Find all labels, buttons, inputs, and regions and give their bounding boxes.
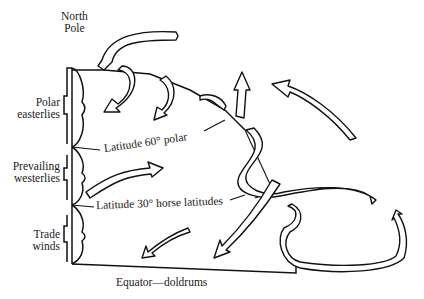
polar-easterlies-line2: easterlies [6, 108, 60, 120]
equator-line [72, 264, 296, 273]
prevailing-westerlies-label: Prevailing westerlies [2, 160, 60, 184]
north-pole-label-line1: North [61, 10, 88, 22]
north-pole-label-line2: Pole [61, 22, 88, 34]
left-meridian-brackets [64, 68, 85, 264]
westerlies-arrow [86, 162, 163, 198]
hadley-cell-loop [280, 204, 406, 272]
polar-easterlies-label: Polar easterlies [6, 96, 60, 120]
s-curve-band [238, 128, 376, 204]
trade-winds-line1: Trade [6, 228, 60, 240]
trade-wind-arrow-1 [142, 228, 190, 258]
wind-circulation-diagram [0, 0, 424, 299]
upper-air-arrow [272, 80, 356, 140]
rising-air-arrow [234, 72, 250, 118]
polar-easterlies-line1: Polar [6, 96, 60, 108]
trade-winds-line2: winds [6, 240, 60, 252]
equator-label: Equator—doldrums [116, 276, 207, 288]
prevailing-westerlies-line2: westerlies [2, 172, 60, 184]
prevailing-westerlies-line1: Prevailing [2, 160, 60, 172]
polar-arrows [98, 32, 226, 120]
trade-winds-label: Trade winds [6, 228, 60, 252]
north-pole-label: North Pole [61, 10, 88, 34]
